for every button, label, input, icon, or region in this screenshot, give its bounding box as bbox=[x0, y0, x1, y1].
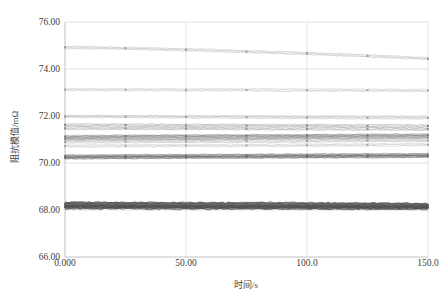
data-point-marker bbox=[367, 125, 369, 127]
series-trace-09 bbox=[64, 143, 429, 147]
data-point-marker bbox=[306, 140, 308, 142]
data-point-marker bbox=[427, 117, 429, 119]
y-axis-ticks: 66.0068.0070.0072.0074.0076.00 bbox=[0, 0, 60, 299]
x-tick-label: 150.0 bbox=[417, 258, 438, 268]
data-point-marker bbox=[185, 156, 187, 158]
data-point-marker bbox=[306, 154, 308, 156]
data-point-marker bbox=[246, 128, 248, 130]
data-point-marker bbox=[125, 145, 127, 147]
data-point-marker bbox=[64, 155, 66, 157]
data-point-marker bbox=[64, 157, 66, 159]
data-point-marker bbox=[306, 137, 308, 139]
data-point-marker bbox=[125, 157, 127, 159]
data-point-marker bbox=[185, 89, 187, 91]
data-point-marker bbox=[367, 117, 369, 119]
data-point-marker bbox=[306, 89, 308, 91]
data-point-marker bbox=[185, 206, 187, 208]
data-point-marker bbox=[64, 115, 66, 117]
data-point-marker bbox=[185, 138, 187, 140]
data-point-marker bbox=[367, 207, 369, 209]
data-point-marker bbox=[185, 116, 187, 118]
data-point-marker bbox=[246, 116, 248, 118]
data-point-marker bbox=[246, 135, 248, 137]
data-point-marker bbox=[367, 128, 369, 130]
series-line bbox=[65, 49, 428, 60]
data-point-marker bbox=[427, 125, 429, 127]
data-point-marker bbox=[306, 125, 308, 127]
data-point-marker bbox=[367, 140, 369, 142]
data-point-marker bbox=[306, 116, 308, 118]
data-point-marker bbox=[427, 136, 429, 138]
data-point-marker bbox=[64, 136, 66, 138]
data-point-marker bbox=[185, 145, 187, 147]
series-layer bbox=[64, 46, 429, 210]
data-point-marker bbox=[367, 55, 369, 57]
data-point-marker bbox=[246, 89, 248, 91]
x-tick-label: 0.000 bbox=[54, 258, 75, 268]
data-point-marker bbox=[427, 89, 429, 91]
data-point-marker bbox=[427, 58, 429, 60]
data-point-marker bbox=[246, 144, 248, 146]
data-point-marker bbox=[64, 141, 66, 143]
data-point-marker bbox=[427, 139, 429, 141]
x-tick-label: 50.00 bbox=[175, 258, 196, 268]
data-point-marker bbox=[246, 156, 248, 158]
y-tick-label: 76.00 bbox=[12, 17, 60, 27]
data-point-marker bbox=[64, 89, 66, 91]
x-tick-label: 100.0 bbox=[296, 258, 317, 268]
series-trace-05 bbox=[64, 127, 429, 131]
data-point-marker bbox=[125, 116, 127, 118]
data-point-marker bbox=[306, 206, 308, 208]
data-point-marker bbox=[367, 156, 369, 158]
data-point-marker bbox=[246, 206, 248, 208]
data-point-marker bbox=[246, 124, 248, 126]
data-point-marker bbox=[185, 49, 187, 51]
data-point-marker bbox=[306, 144, 308, 146]
x-axis-label: 时间/s bbox=[0, 278, 446, 291]
data-point-marker bbox=[427, 207, 429, 209]
series-trace-02 bbox=[64, 88, 429, 92]
series-trace-08 bbox=[64, 139, 429, 143]
y-tick-label: 70.00 bbox=[12, 158, 60, 168]
data-point-marker bbox=[185, 127, 187, 129]
data-point-marker bbox=[125, 127, 127, 129]
data-point-marker bbox=[427, 134, 429, 136]
data-point-marker bbox=[125, 89, 127, 91]
data-point-marker bbox=[367, 89, 369, 91]
data-point-marker bbox=[306, 52, 308, 54]
series-trace-04 bbox=[64, 124, 429, 128]
data-point-marker bbox=[246, 137, 248, 139]
y-tick-label: 68.00 bbox=[12, 205, 60, 215]
data-point-marker bbox=[64, 124, 66, 126]
data-point-marker bbox=[64, 138, 66, 140]
data-point-marker bbox=[185, 140, 187, 142]
data-point-marker bbox=[427, 128, 429, 130]
data-point-marker bbox=[64, 145, 66, 147]
data-point-marker bbox=[246, 51, 248, 53]
data-point-marker bbox=[125, 47, 127, 49]
data-point-marker bbox=[125, 135, 127, 137]
series-trace-14 bbox=[64, 205, 429, 210]
data-point-marker bbox=[185, 124, 187, 126]
data-point-marker bbox=[367, 144, 369, 146]
data-point-marker bbox=[64, 206, 66, 208]
data-point-marker bbox=[125, 124, 127, 126]
y-tick-label: 74.00 bbox=[12, 64, 60, 74]
data-point-marker bbox=[125, 206, 127, 208]
data-point-marker bbox=[64, 127, 66, 129]
plot-canvas bbox=[0, 0, 446, 299]
data-point-marker bbox=[64, 46, 66, 48]
y-tick-label: 66.00 bbox=[12, 252, 60, 262]
data-point-marker bbox=[306, 128, 308, 130]
series-trace-01 bbox=[64, 46, 429, 59]
y-tick-label: 72.00 bbox=[12, 111, 60, 121]
data-point-marker bbox=[367, 134, 369, 136]
data-point-marker bbox=[427, 144, 429, 146]
resistance-vs-time-chart: 阻抗模值/mΩ 66.0068.0070.0072.0074.0076.00 0… bbox=[0, 0, 446, 299]
data-point-marker bbox=[367, 137, 369, 139]
data-point-marker bbox=[427, 155, 429, 157]
data-point-marker bbox=[125, 138, 127, 140]
data-point-marker bbox=[125, 141, 127, 143]
data-point-marker bbox=[246, 140, 248, 142]
data-point-marker bbox=[185, 135, 187, 137]
